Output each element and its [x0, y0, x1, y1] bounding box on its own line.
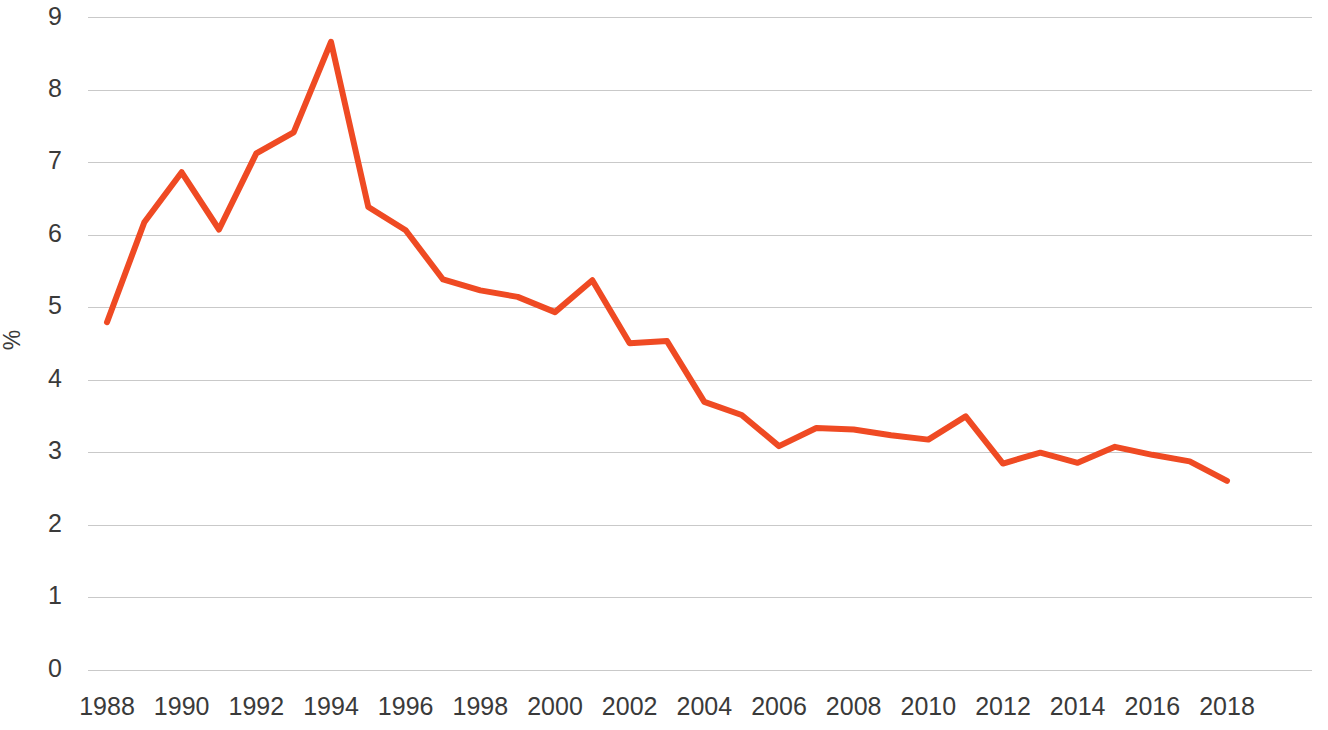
y-axis-tick-label: 5: [48, 291, 62, 319]
y-axis-tick-label: 8: [48, 74, 62, 102]
x-axis-tick-label: 2014: [1050, 692, 1106, 720]
y-axis-tick-label: 3: [48, 436, 62, 464]
y-axis-tick-label: 1: [48, 581, 62, 609]
x-axis-tick-label: 2008: [826, 692, 882, 720]
x-axis-tick-label: 1996: [378, 692, 434, 720]
x-axis-tick-label: 2000: [527, 692, 583, 720]
x-axis-tick-label: 2006: [751, 692, 807, 720]
x-axis-tick-label: 1988: [79, 692, 135, 720]
y-axis-tick-label: 4: [48, 364, 62, 392]
x-axis-tick-label: 2012: [975, 692, 1031, 720]
x-axis-tick-label: 1992: [229, 692, 285, 720]
y-axis-tick-label: 2: [48, 509, 62, 537]
x-axis-tick-label: 2002: [602, 692, 658, 720]
x-axis-tick-label: 2010: [901, 692, 957, 720]
line-chart: 0123456789 19881990199219941996199820002…: [0, 0, 1328, 730]
x-axis-tick-label: 1998: [453, 692, 509, 720]
chart-container: 0123456789 19881990199219941996199820002…: [0, 0, 1328, 730]
x-axis-tick-label: 1994: [303, 692, 359, 720]
x-axis-tick-label: 2004: [677, 692, 733, 720]
x-axis-tick-label: 2018: [1199, 692, 1255, 720]
y-axis-tick-label: 7: [48, 146, 62, 174]
x-axis-tick-label: 1990: [154, 692, 210, 720]
x-axis-tick-label: 2016: [1125, 692, 1181, 720]
y-axis-title: %: [0, 330, 25, 350]
y-axis-tick-label: 0: [48, 654, 62, 682]
y-axis-tick-label: 9: [48, 2, 62, 30]
chart-background: [0, 0, 1328, 730]
y-axis-tick-label: 6: [48, 219, 62, 247]
